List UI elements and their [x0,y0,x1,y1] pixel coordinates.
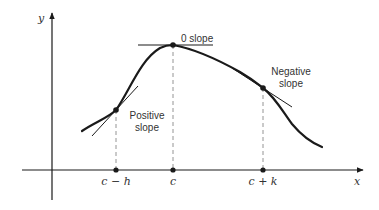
annotation-positive-line2: slope [135,122,159,133]
axis-point-c-minus-h [113,167,118,172]
tick-label-c-plus-k: c + k [248,175,277,188]
axis-point-c-plus-k [260,167,265,172]
function-curve [82,45,322,147]
annotation-negative-line2: slope [279,78,303,89]
slope-diagram: y x c − h c c + k 0 slope Positive slope… [0,0,379,210]
annotation-positive-line1: Positive [129,110,164,121]
x-axis-label: x [354,175,361,188]
axis-point-c [170,167,175,172]
tick-label-c-minus-h: c − h [101,175,130,188]
annotation-zero-slope: 0 slope [181,33,214,44]
point-c-plus-k [260,85,266,91]
point-c-minus-h [113,107,119,113]
point-c [170,42,176,48]
annotation-negative-line1: Negative [271,66,311,77]
y-axis-label: y [37,12,45,25]
tick-label-c: c [170,175,176,188]
